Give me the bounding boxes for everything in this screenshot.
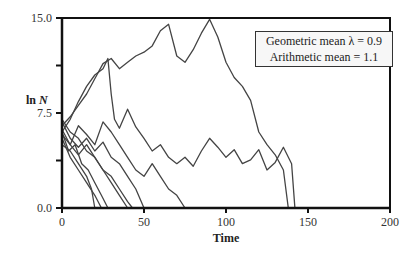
x-tick-label: 50 (138, 215, 150, 229)
y-tick-label: 7.5 (37, 106, 52, 120)
annotation-line-1: Geometric mean λ = 0.9 (256, 33, 392, 49)
x-tick-label: 150 (299, 215, 317, 229)
x-tick-label: 0 (59, 215, 65, 229)
annotation-box: Geometric mean λ = 0.9 Arithmetic mean =… (255, 31, 393, 67)
x-tick-label: 200 (381, 215, 399, 229)
y-axis-title: ln N (26, 93, 49, 107)
x-tick-label: 100 (217, 215, 235, 229)
series-line-run-7 (62, 135, 133, 209)
annotation-line-2: Arithmetic mean = 1.1 (256, 49, 392, 65)
y-tick-label: 0.0 (37, 201, 52, 215)
y-tick-label: 15.0 (31, 11, 52, 25)
x-axis-title: Time (213, 231, 240, 245)
